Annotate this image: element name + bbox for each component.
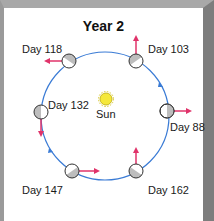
label-day-88: Day 88 [170, 121, 205, 133]
label-day-132: Day 132 [48, 99, 89, 111]
diagram-title: Year 2 [0, 18, 207, 34]
sun-label: Sun [96, 108, 116, 120]
label-day-118: Day 118 [22, 43, 62, 55]
label-day-162: Day 162 [148, 184, 189, 196]
label-day-147: Day 147 [22, 184, 63, 196]
label-day-103: Day 103 [148, 43, 189, 55]
